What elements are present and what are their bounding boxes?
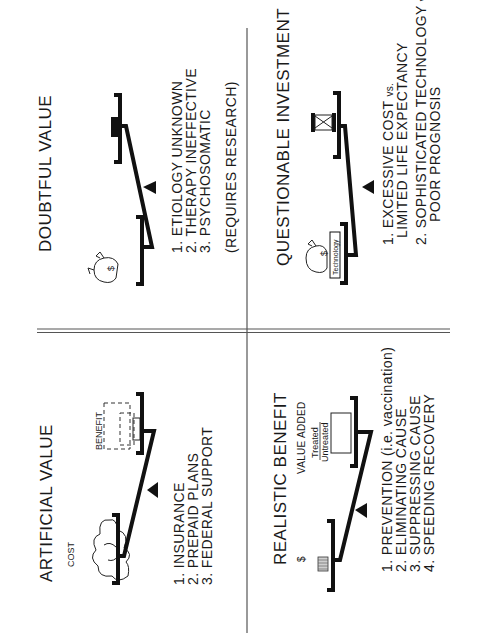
label-dollar: $ — [106, 266, 116, 271]
item-list: 1. ETIOLOGY UNKNOWN 2. THERAPY INEFFECTI… — [169, 68, 239, 253]
quadrant-doubtful-value: DOUBTFUL VALUE $ 1. ETIOLOGY UNKNOWN 2. … — [36, 68, 239, 284]
item-list: 1. INSURANCE 2. PREPAID PLANS 3. FEDERAL… — [171, 427, 215, 585]
list-item: 3. PSYCHOSOMATIC — [197, 109, 213, 253]
weight-block — [111, 117, 121, 137]
label-dollar: $ — [296, 556, 307, 562]
triangle-fulcrum-icon — [143, 181, 156, 194]
title-artificial-value: ARTIFICIAL VALUE — [37, 424, 56, 582]
title-questionable-investment: QUESTIONABLE INVESTMENT — [274, 8, 293, 266]
fraction-denominator: Untreated — [320, 422, 330, 462]
triangle-fulcrum-icon — [362, 180, 374, 194]
list-item-line2: POOR PROGNOSIS — [427, 86, 443, 222]
list-item: 4. SPEEDING RECOVERY — [421, 394, 437, 572]
label-value-added: VALUE ADDED — [296, 401, 307, 474]
item-list: 1. PREVENTION (i.e. vaccination) 2. ELIM… — [379, 347, 437, 572]
label-dollar: $ — [319, 251, 329, 256]
triangle-fulcrum-icon — [355, 503, 367, 518]
fraction-numerator: Treated — [310, 427, 320, 458]
triangle-fulcrum-icon — [147, 482, 158, 498]
item-list: 1. EXCESSIVE COSTvs. LIMITED LIFE EXPECT… — [380, 0, 443, 245]
balance-scale — [112, 394, 158, 583]
label-benefit: BENEFIT — [94, 411, 104, 450]
coin-stack-icon — [318, 557, 328, 571]
hourglass-icon — [311, 113, 336, 132]
title-doubtful-value: DOUBTFUL VALUE — [36, 95, 55, 252]
value-added-fraction: Treated Untreated — [310, 413, 351, 462]
list-item: 3. FEDERAL SUPPORT — [199, 427, 215, 585]
quadrant-questionable-investment: QUESTIONABLE INVESTMENT $ Technology 1. … — [274, 0, 443, 283]
label-cost: COST — [66, 541, 76, 567]
benefit-dashed-boxes — [104, 403, 140, 449]
balance-scale — [111, 95, 156, 284]
balance-scale — [327, 398, 371, 590]
note-requires-research: (REQUIRES RESEARCH) — [223, 81, 239, 253]
diagram-canvas: ARTIFICIAL VALUE COST BENEFIT 1. INSURAN… — [0, 0, 488, 633]
list-item-line2: LIMITED LIFE EXPECTANCY — [394, 42, 410, 238]
quadrant-realistic-benefit: REALISTIC BENEFIT $ VALUE ADDED Treated … — [271, 347, 437, 590]
title-realistic-benefit: REALISTIC BENEFIT — [271, 392, 290, 565]
technology-label: Technology — [332, 239, 340, 275]
vs-text: vs. — [417, 0, 428, 1]
technology-box: Technology — [330, 232, 340, 278]
quadrant-artificial-value: ARTIFICIAL VALUE COST BENEFIT 1. INSURAN… — [37, 394, 215, 585]
